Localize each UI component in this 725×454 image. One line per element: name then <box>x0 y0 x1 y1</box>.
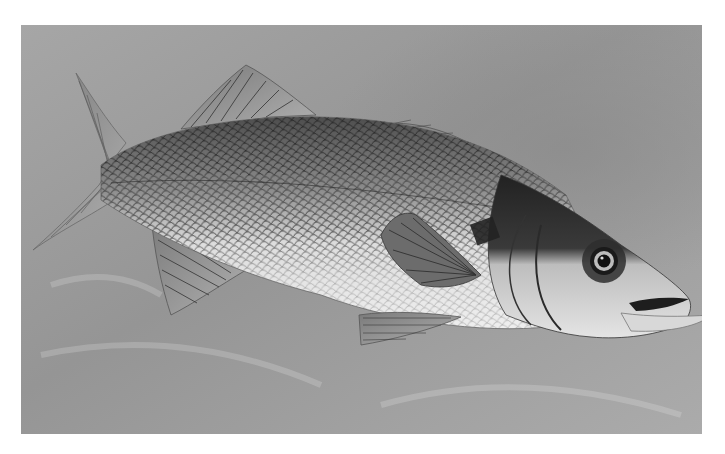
eye <box>582 239 626 283</box>
painting-frame: Painted illustration of a sea bass swimm… <box>21 25 702 434</box>
sea-bass-illustration <box>21 25 702 434</box>
